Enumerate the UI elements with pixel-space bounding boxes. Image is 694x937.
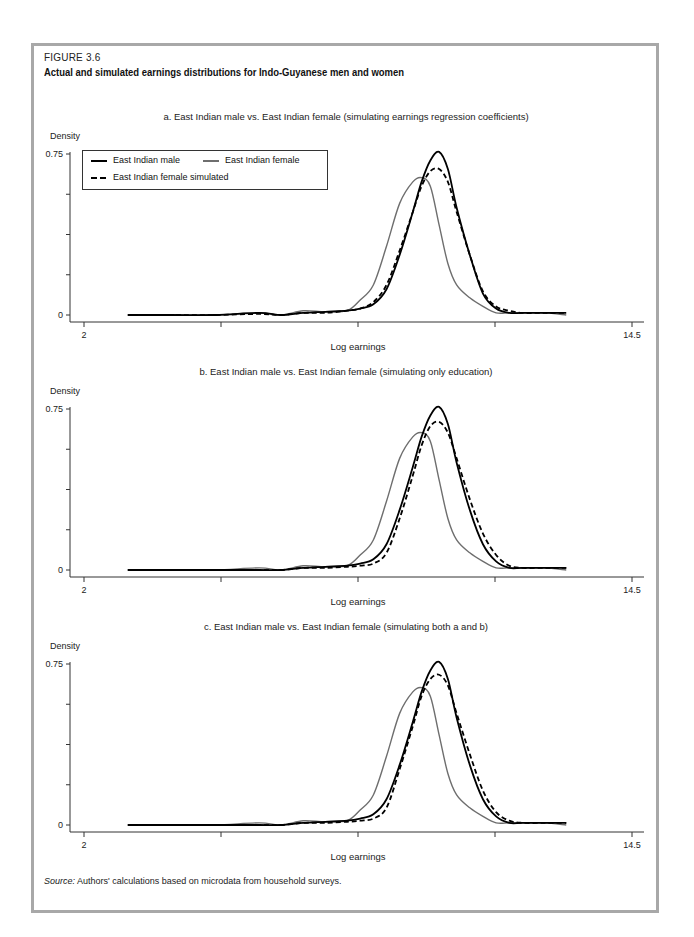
figure-title: Actual and simulated earnings distributi…	[44, 66, 404, 78]
source-note: Source: Authors' calculations based on m…	[44, 876, 341, 886]
svg-text:0: 0	[58, 310, 63, 320]
figure-label: FIGURE 3.6	[44, 52, 100, 63]
legend-swatch-female	[203, 160, 219, 162]
svg-text:2: 2	[81, 840, 86, 850]
svg-text:0.75: 0.75	[45, 149, 63, 159]
svg-text:14.5: 14.5	[623, 585, 641, 595]
svg-text:14.5: 14.5	[623, 330, 641, 340]
panel-c: c. East Indian male vs. East Indian fema…	[36, 610, 656, 870]
series-line-east-indian-female-simulated	[128, 168, 566, 315]
chart-plot-c: 0.750214.5Log earnings	[36, 610, 656, 870]
source-label: Source:	[44, 876, 75, 886]
legend-swatch-simulated	[91, 177, 107, 179]
panel-b: b. East Indian male vs. East Indian fema…	[36, 355, 656, 615]
series-line-east-indian-female	[128, 432, 566, 570]
series-line-east-indian-female-simulated	[128, 674, 566, 825]
svg-text:Log earnings: Log earnings	[331, 341, 386, 352]
series-line-east-indian-male	[128, 662, 566, 826]
legend-label-simulated: East Indian female simulated	[113, 172, 229, 182]
legend: East Indian male East Indian female East…	[82, 150, 328, 190]
legend-label-male: East Indian male	[113, 155, 180, 165]
svg-text:Log earnings: Log earnings	[331, 851, 386, 862]
chart-plot-a: 0.750214.5Log earnings	[36, 100, 656, 360]
svg-text:Log earnings: Log earnings	[331, 596, 386, 607]
legend-label-female: East Indian female	[225, 155, 300, 165]
series-line-east-indian-female	[128, 687, 566, 825]
series-line-east-indian-male	[128, 407, 566, 571]
svg-text:2: 2	[81, 585, 86, 595]
series-line-east-indian-female-simulated	[128, 422, 566, 571]
svg-text:0: 0	[58, 565, 63, 575]
svg-text:14.5: 14.5	[623, 840, 641, 850]
svg-text:0.75: 0.75	[45, 404, 63, 414]
panel-a: a. East Indian male vs. East Indian fema…	[36, 100, 656, 360]
legend-swatch-male	[91, 160, 107, 162]
series-line-east-indian-female	[128, 177, 566, 315]
svg-text:2: 2	[81, 330, 86, 340]
source-text: Authors' calculations based on microdata…	[77, 876, 341, 886]
svg-text:0.75: 0.75	[45, 659, 63, 669]
svg-text:0: 0	[58, 820, 63, 830]
chart-plot-b: 0.750214.5Log earnings	[36, 355, 656, 615]
